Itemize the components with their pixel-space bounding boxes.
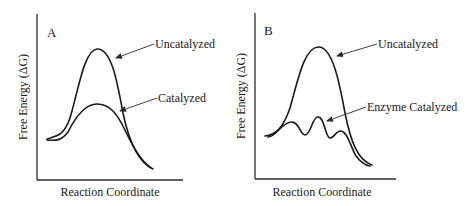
- panel-a-catalyzed-label: Catalyzed: [158, 91, 206, 105]
- panel-a-uncatalyzed-label: Uncatalyzed: [155, 37, 215, 51]
- panel-a-label: A: [47, 25, 57, 40]
- panel-a-y-axis-label: Free Energy (ΔG): [16, 54, 30, 140]
- panel-a-catalyzed-arrow: [120, 98, 157, 111]
- panel-b-y-axis-label: Free Energy (ΔG): [234, 53, 248, 139]
- panel-b-label: B: [264, 23, 273, 38]
- panel-a-uncatalyzed-arrow: [116, 44, 154, 58]
- panel-b-uncatalyzed-curve: [265, 47, 372, 165]
- panel-a: A Free Energy (ΔG) Reaction Coordinate U…: [16, 14, 215, 199]
- panel-a-catalyzed-curve: [47, 104, 151, 168]
- panel-a-uncatalyzed-curve: [47, 49, 153, 169]
- panel-a-x-axis-label: Reaction Coordinate: [61, 185, 160, 199]
- panel-b-uncatalyzed-label: Uncatalyzed: [378, 37, 438, 51]
- panel-b-x-axis-label: Reaction Coordinate: [273, 185, 372, 199]
- energy-diagram: A Free Energy (ΔG) Reaction Coordinate U…: [0, 0, 467, 206]
- panel-b-enzyme-catalyzed-label: Enzyme Catalyzed: [367, 100, 457, 114]
- panel-b: B Free Energy (ΔG) Reaction Coordinate U…: [234, 13, 457, 199]
- panel-b-uncatalyzed-arrow: [337, 44, 377, 56]
